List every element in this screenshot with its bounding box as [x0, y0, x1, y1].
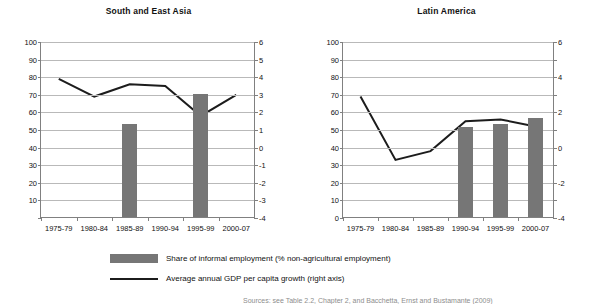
secondary-y-axis-label: 6	[558, 38, 562, 47]
x-axis-tick	[483, 217, 484, 221]
secondary-y-axis-tick	[254, 95, 258, 96]
y-axis-tick	[340, 200, 343, 201]
secondary-y-axis-label: -2	[558, 178, 565, 187]
x-axis-label: 1995-99	[187, 224, 215, 233]
y-axis-tick	[340, 112, 343, 113]
secondary-y-axis-tick	[254, 183, 258, 184]
y-axis-tick	[38, 200, 41, 201]
y-axis-label: 30	[29, 161, 37, 170]
y-axis-tick	[340, 77, 343, 78]
y-axis-label: 60	[331, 108, 339, 117]
secondary-y-axis-label: 5	[259, 55, 263, 64]
secondary-y-axis-tick	[553, 148, 557, 149]
figure-root: South and East Asia 10203040506070809010…	[0, 0, 595, 304]
y-axis-tick	[340, 148, 343, 149]
y-axis-label: 90	[29, 55, 37, 64]
secondary-y-axis-tick	[553, 95, 557, 96]
gridline	[343, 60, 553, 61]
bar	[122, 124, 137, 217]
secondary-y-axis-label: 3	[259, 90, 263, 99]
x-axis-label: 2000-07	[222, 224, 250, 233]
x-axis-tick	[41, 217, 42, 221]
x-axis-label: 2000-07	[522, 224, 550, 233]
secondary-y-axis-tick	[553, 112, 557, 113]
y-axis-label: 50	[331, 126, 339, 135]
gridline	[343, 42, 553, 43]
bar	[493, 124, 508, 217]
secondary-y-axis-label: -4	[259, 214, 266, 223]
secondary-y-axis-tick	[254, 60, 258, 61]
gridline	[343, 200, 553, 201]
secondary-y-axis-label: 1	[259, 126, 263, 135]
secondary-y-axis-label: 2	[259, 108, 263, 117]
x-axis-label: 1980-84	[382, 224, 410, 233]
secondary-y-axis-tick	[553, 200, 557, 201]
y-axis-label: 70	[29, 90, 37, 99]
secondary-y-axis-tick	[553, 130, 557, 131]
secondary-y-axis-label: -2	[259, 178, 266, 187]
x-axis-tick	[77, 217, 78, 221]
x-axis-tick	[413, 217, 414, 221]
plot-area-left: 102030405060708090100-4-3-2-101234561975…	[40, 42, 255, 218]
y-axis-tick	[38, 183, 41, 184]
y-axis-label: 90	[331, 55, 339, 64]
y-axis-tick	[340, 42, 343, 43]
secondary-y-axis-tick	[553, 77, 557, 78]
gridline	[343, 183, 553, 184]
y-axis-tick	[340, 165, 343, 166]
x-axis-tick	[378, 217, 379, 221]
gridline	[41, 60, 254, 61]
x-axis-label: 1990-94	[452, 224, 480, 233]
bar	[193, 94, 208, 217]
secondary-y-axis-tick	[553, 218, 557, 219]
y-axis-tick	[38, 130, 41, 131]
x-axis-label: 1985-89	[417, 224, 445, 233]
legend-bar-swatch	[110, 254, 158, 263]
gridline	[343, 95, 553, 96]
y-axis-tick	[38, 112, 41, 113]
x-axis-label: 1975-79	[45, 224, 73, 233]
legend-bar-label: Share of informal employment (% non-agri…	[166, 254, 391, 263]
y-axis-label: 60	[29, 108, 37, 117]
x-axis-tick	[219, 217, 220, 221]
secondary-y-axis-tick	[254, 77, 258, 78]
secondary-y-axis-label: 4	[558, 73, 562, 82]
x-axis-tick	[518, 217, 519, 221]
gridline	[41, 148, 254, 149]
y-axis-label: 100	[24, 38, 37, 47]
chart-title-right: Latin America	[298, 6, 595, 16]
x-axis-label: 1985-89	[116, 224, 144, 233]
y-axis-tick	[38, 95, 41, 96]
y-axis-label: 10	[29, 196, 37, 205]
secondary-y-axis-tick	[254, 200, 258, 201]
gridline	[41, 95, 254, 96]
secondary-y-axis-label: 0	[259, 143, 263, 152]
gridline	[41, 183, 254, 184]
secondary-y-axis-tick	[254, 148, 258, 149]
source-note: Sources: see Table 2.2, Chapter 2, and B…	[243, 296, 595, 304]
x-axis-label: 1975-79	[347, 224, 375, 233]
y-axis-label: 0	[335, 214, 339, 223]
secondary-y-axis-label: -1	[259, 161, 266, 170]
gridline	[41, 200, 254, 201]
y-axis-label: 70	[331, 90, 339, 99]
x-axis-label: 1980-84	[80, 224, 108, 233]
y-axis-label: 20	[29, 178, 37, 187]
x-axis-label: 1990-94	[151, 224, 179, 233]
gridline	[41, 42, 254, 43]
gridline	[41, 165, 254, 166]
gridline	[41, 77, 254, 78]
gridline	[343, 165, 553, 166]
secondary-y-axis-label: -4	[558, 214, 565, 223]
y-axis-label: 40	[29, 143, 37, 152]
legend-line-label: Average annual GDP per capita growth (ri…	[166, 274, 344, 283]
y-axis-tick	[340, 183, 343, 184]
secondary-y-axis-tick	[254, 130, 258, 131]
gridline	[343, 112, 553, 113]
y-axis-label: 100	[326, 38, 339, 47]
chart-legend: Share of informal employment (% non-agri…	[0, 248, 595, 292]
secondary-y-axis-tick	[254, 218, 258, 219]
y-axis-label: 10	[331, 196, 339, 205]
y-axis-label: 80	[331, 73, 339, 82]
secondary-y-axis-tick	[254, 112, 258, 113]
